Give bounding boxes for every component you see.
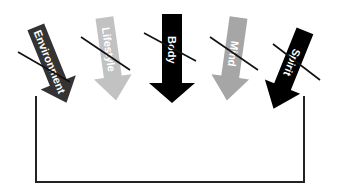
arrow-spirit: Spirit	[256, 24, 323, 116]
arrow-body: Body	[149, 14, 195, 103]
bracket-container	[36, 96, 304, 182]
arrow-lifestyle: Lifestyle	[86, 15, 135, 103]
arrow-environment: Environment	[18, 20, 84, 110]
diagram-canvas: Environment Lifestyle Body Mind Spirit	[0, 0, 337, 193]
arrow-mind: Mind	[208, 15, 257, 103]
